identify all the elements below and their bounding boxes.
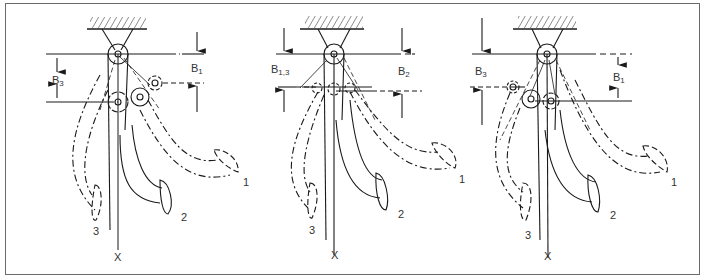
- dimension-label-right: B1: [613, 72, 625, 85]
- dimension-label-right: B1: [191, 63, 203, 76]
- dimension-label-left: B3: [475, 66, 487, 79]
- dimension-label-left: B3: [52, 75, 64, 88]
- panel-left: [46, 17, 238, 250]
- axis-label-x: X: [544, 251, 551, 262]
- pedal-label-3: 3: [309, 225, 315, 236]
- axis-label-x: X: [331, 250, 338, 261]
- panel-middle: [276, 16, 456, 255]
- axis-label-x: X: [114, 252, 121, 263]
- pedal-label-2: 2: [610, 210, 616, 221]
- pedal-label-2: 2: [398, 209, 404, 220]
- pedal-diagram: [0, 0, 707, 280]
- pedal-label-3: 3: [93, 226, 99, 237]
- pedal-label-2: 2: [181, 212, 187, 223]
- ground-hatch-icon: [300, 16, 364, 48]
- dimension-label-right: B2: [398, 66, 410, 79]
- pedal-label-3: 3: [525, 230, 531, 241]
- ground-hatch-icon: [87, 17, 147, 50]
- pedal-label-1: 1: [671, 177, 677, 188]
- ground-hatch-icon: [513, 16, 577, 48]
- pedal-label-1: 1: [459, 174, 465, 185]
- pedal-label-1: 1: [243, 177, 249, 188]
- panel-right: [470, 16, 667, 258]
- dimension-label-left: B1,3: [271, 64, 289, 77]
